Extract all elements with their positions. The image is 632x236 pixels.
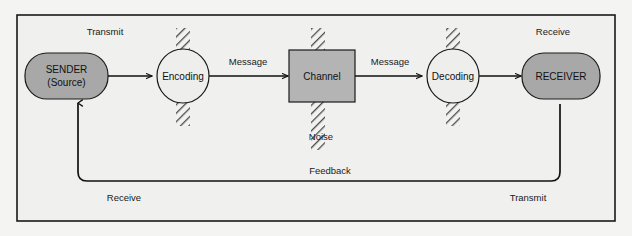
label-transmit-bottom: Transmit [510, 192, 547, 203]
label-receive-bottom: Receive [107, 192, 141, 203]
label-receive-top: Receive [536, 26, 570, 37]
label-transmit-top: Transmit [87, 26, 124, 37]
node-sender-label-line1: SENDER [46, 64, 88, 75]
node-decoding-label: Decoding [432, 71, 474, 82]
label-noise: Noise [309, 131, 333, 142]
label-feedback: Feedback [309, 165, 351, 176]
node-receiver-label: RECEIVER [535, 71, 586, 82]
node-channel-label: Channel [303, 71, 340, 82]
node-sender-label-line2: (Source) [47, 77, 85, 88]
diagram-canvas: SENDER (Source) Encoding Channel Decodin… [0, 0, 632, 236]
label-message-2: Message [371, 56, 410, 67]
node-encoding-label: Encoding [162, 71, 204, 82]
label-message-1: Message [229, 56, 268, 67]
communication-model-diagram: SENDER (Source) Encoding Channel Decodin… [0, 0, 632, 236]
